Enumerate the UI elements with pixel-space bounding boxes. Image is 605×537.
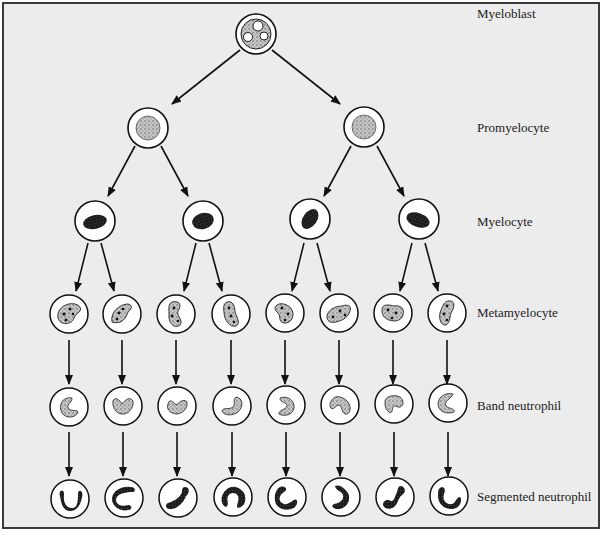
myelocyte-cell <box>75 201 115 241</box>
band-neutrophil-cell <box>429 384 467 422</box>
metamyelocyte-cell <box>320 294 358 332</box>
label-myeloblast: Myeloblast <box>477 6 536 22</box>
metamyelocyte-cell <box>374 294 412 332</box>
segmented-neutrophil-cell <box>214 478 252 516</box>
metamyelocyte-cell <box>428 294 466 332</box>
myelocyte-cell <box>399 199 439 239</box>
metamyelocyte-cell <box>50 295 88 333</box>
band-neutrophil-cell <box>375 385 413 423</box>
myelocyte-cell <box>183 201 223 241</box>
metamyelocyte-cell <box>266 294 304 332</box>
label-promyelocyte: Promyelocyte <box>477 120 549 136</box>
segmented-neutrophil-cell <box>51 480 89 518</box>
segmented-neutrophil-cell <box>159 479 197 517</box>
segmented-neutrophil-cell <box>376 478 414 516</box>
maturation-tree <box>0 0 605 537</box>
segmented-neutrophil-cell <box>105 479 143 517</box>
promyelocyte-cell <box>128 108 168 148</box>
segmented-neutrophil-row <box>51 477 468 518</box>
promyelocyte-cell <box>344 107 384 147</box>
metamyelocyte-cell <box>103 295 141 333</box>
band-neutrophil-cell <box>321 386 359 424</box>
segmented-neutrophil-cell <box>430 477 468 515</box>
segmented-neutrophil-cell <box>322 478 360 516</box>
band-neutrophil-cell <box>213 387 251 425</box>
label-myelocyte: Myelocyte <box>477 214 533 230</box>
band-neutrophil-row <box>50 384 467 426</box>
band-neutrophil-cell <box>267 386 305 424</box>
metamyelocyte-row <box>50 294 466 333</box>
band-neutrophil-cell <box>50 388 88 426</box>
label-band-neutrophil: Band neutrophil <box>477 398 561 414</box>
label-segmented-neutrophil: Segmented neutrophil <box>477 489 591 505</box>
metamyelocyte-cell <box>157 295 195 333</box>
myelocyte-cell <box>290 199 330 239</box>
metamyelocyte-cell <box>212 295 250 333</box>
band-neutrophil-cell <box>104 387 142 425</box>
band-neutrophil-cell <box>158 387 196 425</box>
myeloblast-cell <box>236 14 276 54</box>
segmented-neutrophil-cell <box>268 478 306 516</box>
label-metamyelocyte: Metamyelocyte <box>477 305 558 321</box>
